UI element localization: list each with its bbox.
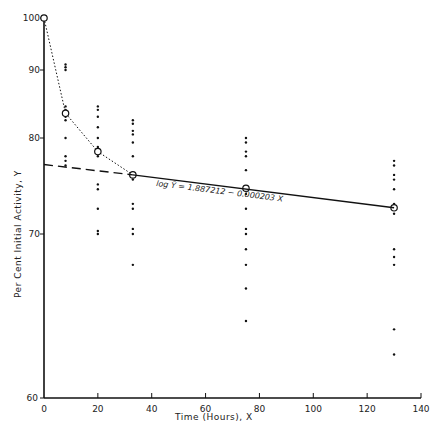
data-point <box>64 66 66 68</box>
mean-marker <box>41 15 47 21</box>
data-point <box>245 137 247 139</box>
data-point <box>393 353 395 355</box>
x-tick-label: 40 <box>146 404 158 414</box>
data-point <box>393 178 395 180</box>
x-tick-label: 80 <box>254 404 266 414</box>
data-point <box>64 160 66 162</box>
data-point <box>64 69 66 71</box>
data-point <box>245 264 247 266</box>
y-tick-label: 100 <box>23 13 40 23</box>
data-point <box>245 150 247 152</box>
data-point <box>393 328 395 330</box>
data-point <box>393 188 395 190</box>
data-point <box>132 155 134 157</box>
mean-marker <box>62 110 68 116</box>
data-point <box>132 233 134 235</box>
data-point <box>64 137 66 139</box>
data-point <box>64 63 66 65</box>
data-point <box>393 256 395 258</box>
data-point <box>393 264 395 266</box>
data-point <box>245 208 247 210</box>
x-tick-label: 120 <box>359 404 376 414</box>
data-point <box>245 155 247 157</box>
regression-equation: log Ŷ = 1.887212 − 0.000203 X <box>156 177 284 204</box>
data-point <box>393 213 395 215</box>
x-tick-label: 140 <box>412 404 429 414</box>
data-point <box>97 208 99 210</box>
data-point <box>132 133 134 135</box>
data-point <box>97 105 99 107</box>
data-point <box>393 164 395 166</box>
data-point <box>132 203 134 205</box>
x-tick-label: 0 <box>41 404 47 414</box>
data-point <box>393 248 395 250</box>
y-axis-title: Per Cent Initial Activity, Y <box>13 170 23 298</box>
data-point <box>245 228 247 230</box>
data-point <box>245 141 247 143</box>
x-axis-title: Time (Hours), X <box>174 412 253 422</box>
data-point <box>64 119 66 121</box>
data-point <box>97 230 99 232</box>
data-point <box>97 188 99 190</box>
data-point <box>97 126 99 128</box>
data-point <box>64 155 66 157</box>
data-point <box>132 208 134 210</box>
data-point <box>132 119 134 121</box>
x-tick-label: 20 <box>92 404 104 414</box>
data-point <box>97 116 99 118</box>
data-point <box>245 287 247 289</box>
data-point <box>97 137 99 139</box>
data-point <box>97 109 99 111</box>
data-point <box>97 183 99 185</box>
data-point <box>132 264 134 266</box>
y-tick-label: 90 <box>29 65 41 75</box>
y-tick-label: 80 <box>29 133 41 143</box>
x-tick-label: 100 <box>305 404 322 414</box>
data-point <box>245 248 247 250</box>
chart: 02040608010012014060708090100 log Ŷ = 1.… <box>0 0 439 438</box>
data-point <box>245 169 247 171</box>
y-tick-label: 60 <box>27 393 39 403</box>
data-point <box>132 228 134 230</box>
data-point <box>132 123 134 125</box>
data-point <box>97 233 99 235</box>
data-point <box>245 320 247 322</box>
mean-curve <box>44 18 133 175</box>
data-point <box>393 160 395 162</box>
data-point <box>132 130 134 132</box>
plot-area <box>41 15 397 356</box>
axes: 02040608010012014060708090100 <box>23 13 430 414</box>
y-tick-label: 70 <box>29 229 41 239</box>
data-point <box>393 174 395 176</box>
data-point <box>132 178 134 180</box>
extrapolated-line <box>44 165 133 175</box>
data-point <box>64 105 66 107</box>
data-point <box>245 233 247 235</box>
mean-marker <box>95 148 101 154</box>
data-point <box>132 141 134 143</box>
